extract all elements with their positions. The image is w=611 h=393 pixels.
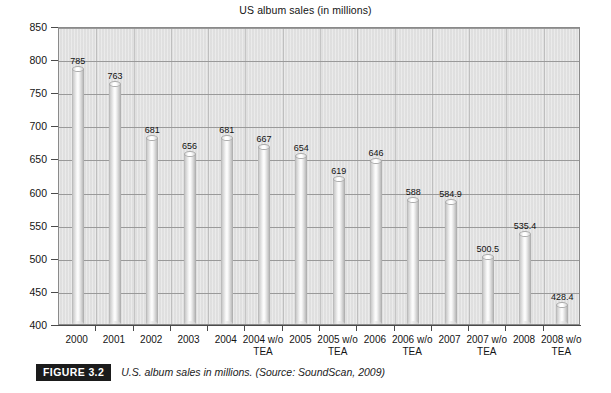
- x-tick-label: 2005: [289, 334, 311, 346]
- x-tick-mark: [207, 325, 208, 331]
- bar-top-cap: [258, 144, 270, 150]
- x-tick-mark: [543, 325, 544, 331]
- gridline: [59, 28, 579, 29]
- x-tick-label: 2005 w/oTEA: [317, 334, 358, 358]
- y-tick-label: 850: [29, 21, 47, 33]
- x-tick-mark: [319, 325, 320, 331]
- y-tick-label: 400: [29, 319, 47, 331]
- bar: [146, 138, 158, 324]
- category-separator: [283, 28, 284, 324]
- x-tick-label-line1: 2002: [140, 334, 162, 345]
- figure-number-badge: FIGURE 3.2: [36, 364, 111, 381]
- bar-value-label: 500.5: [477, 244, 500, 254]
- y-tick-mark: [51, 226, 58, 227]
- x-tick-mark: [468, 325, 469, 331]
- category-separator: [171, 28, 172, 324]
- bar-value-label: 763: [107, 71, 122, 81]
- bar-top-cap: [221, 135, 233, 141]
- x-tick-label-line1: 2004 w/o: [243, 334, 284, 345]
- x-tick-label-line1: 2005 w/o: [317, 334, 358, 345]
- bar-top-cap: [295, 153, 307, 159]
- y-tick-mark: [51, 325, 58, 326]
- y-tick-label: 550: [29, 220, 47, 232]
- x-tick-label: 2001: [103, 334, 125, 346]
- x-tick-label-line1: 2005: [289, 334, 311, 345]
- y-axis: 400450500550600650700750800850: [0, 27, 58, 326]
- y-tick-label: 450: [29, 286, 47, 298]
- x-tick-label-line1: 2006 w/o: [392, 334, 433, 345]
- x-tick-label: 2004 w/oTEA: [243, 334, 284, 358]
- category-separator: [208, 28, 209, 324]
- category-separator: [395, 28, 396, 324]
- bar-top-cap: [556, 302, 568, 308]
- bar: [519, 234, 531, 324]
- x-tick-mark: [356, 325, 357, 331]
- category-separator: [320, 28, 321, 324]
- x-tick-label-line2: TEA: [392, 346, 433, 358]
- gridline: [59, 293, 579, 294]
- gridline: [59, 260, 579, 261]
- x-tick-label-line1: 2008 w/o: [541, 334, 582, 345]
- x-tick-label: 2008: [513, 334, 535, 346]
- x-tick-label-line2: TEA: [243, 346, 284, 358]
- x-tick-label-line1: 2007 w/o: [466, 334, 507, 345]
- bar: [221, 138, 233, 324]
- y-tick-label: 750: [29, 87, 47, 99]
- y-tick-mark: [51, 259, 58, 260]
- x-tick-label-line1: 2004: [215, 334, 237, 345]
- gridline: [59, 94, 579, 95]
- bar-value-label: 656: [182, 141, 197, 151]
- x-tick-mark: [133, 325, 134, 331]
- x-tick-label: 2006 w/oTEA: [392, 334, 433, 358]
- bar-top-cap: [407, 197, 419, 203]
- bar-value-label: 667: [257, 134, 272, 144]
- x-tick-label: 2003: [177, 334, 199, 346]
- bar-value-label: 681: [219, 125, 234, 135]
- gridline: [59, 227, 579, 228]
- x-tick-label: 2006: [364, 334, 386, 346]
- figure-container: US album sales (in millions) 40045050055…: [0, 0, 611, 393]
- y-tick-label: 700: [29, 120, 47, 132]
- gridline: [59, 194, 579, 195]
- bar-value-label: 584.9: [439, 189, 462, 199]
- bar-top-cap: [184, 151, 196, 157]
- plot-area: 785763681656681667654619646588584.9500.5…: [58, 27, 580, 325]
- y-tick-mark: [51, 126, 58, 127]
- bar-top-cap: [370, 158, 382, 164]
- x-tick-label-line2: TEA: [317, 346, 358, 358]
- chart-title: US album sales (in millions): [0, 4, 611, 16]
- y-tick-label: 800: [29, 54, 47, 66]
- bar-value-label: 619: [331, 166, 346, 176]
- plot-texture: [59, 28, 579, 324]
- x-tick-label: 2000: [66, 334, 88, 346]
- category-separator: [245, 28, 246, 324]
- figure-caption: FIGURE 3.2 U.S. album sales in millions.…: [36, 362, 596, 382]
- x-tick-mark: [431, 325, 432, 331]
- x-tick-label-line1: 2008: [513, 334, 535, 345]
- category-separator: [544, 28, 545, 324]
- x-tick-label-line1: 2000: [66, 334, 88, 345]
- bar-top-cap: [109, 81, 121, 87]
- category-separator: [506, 28, 507, 324]
- x-tick-mark: [282, 325, 283, 331]
- bar: [333, 179, 345, 324]
- x-tick-label: 2007 w/oTEA: [466, 334, 507, 358]
- bar-top-cap: [146, 135, 158, 141]
- gridline: [59, 61, 579, 62]
- category-separator: [134, 28, 135, 324]
- bar-top-cap: [333, 176, 345, 182]
- bar: [482, 257, 494, 324]
- y-tick-mark: [51, 292, 58, 293]
- x-tick-label-line1: 2007: [438, 334, 460, 345]
- gridline: [59, 160, 579, 161]
- x-tick-mark: [394, 325, 395, 331]
- y-tick-label: 500: [29, 253, 47, 265]
- bar-value-label: 535.4: [514, 221, 537, 231]
- x-tick-label-line1: 2006: [364, 334, 386, 345]
- category-separator: [432, 28, 433, 324]
- bar-value-label: 428.4: [551, 292, 574, 302]
- bar: [407, 200, 419, 324]
- y-tick-label: 600: [29, 187, 47, 199]
- y-tick-mark: [51, 93, 58, 94]
- x-tick-label: 2004: [215, 334, 237, 346]
